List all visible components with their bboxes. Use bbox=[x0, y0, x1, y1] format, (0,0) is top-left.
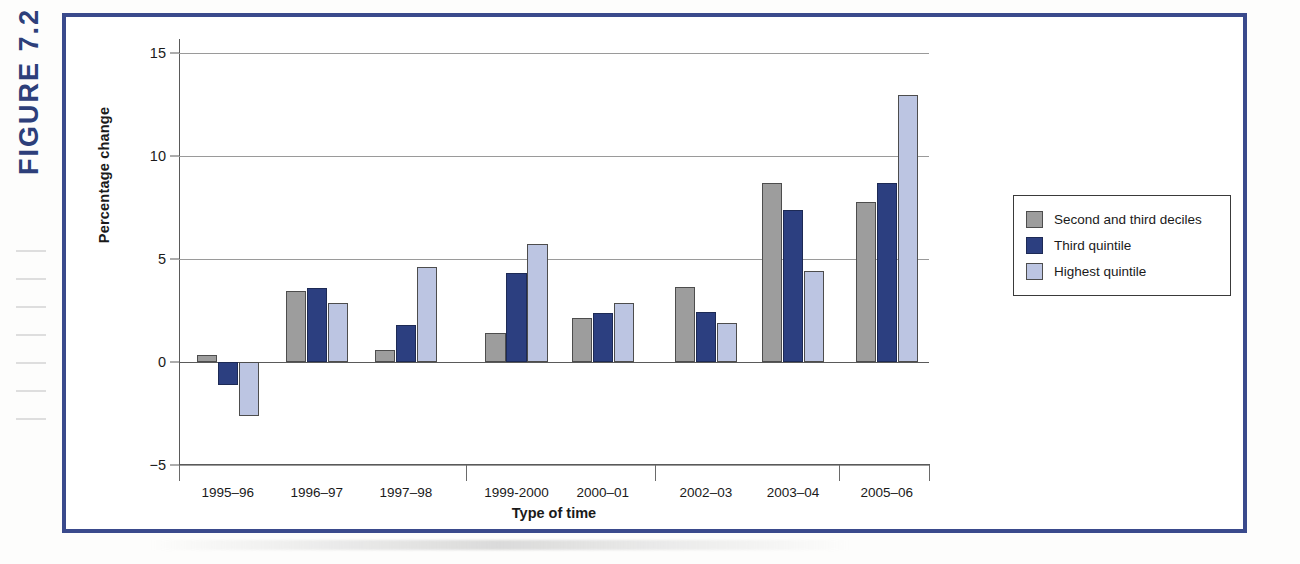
legend-swatch-icon bbox=[1026, 237, 1043, 254]
bar[interactable] bbox=[717, 323, 738, 362]
x-tick-label: 2003–04 bbox=[767, 485, 820, 500]
bar[interactable] bbox=[328, 303, 349, 362]
page-scan-artifact bbox=[150, 540, 850, 550]
bar[interactable] bbox=[506, 273, 527, 362]
y-tick-mark bbox=[170, 465, 179, 466]
bar[interactable] bbox=[783, 210, 804, 362]
bar[interactable] bbox=[877, 183, 898, 362]
bar[interactable] bbox=[593, 313, 614, 362]
x-tick-label: 2002–03 bbox=[680, 485, 733, 500]
bar[interactable] bbox=[417, 267, 438, 362]
y-tick-label: −5 bbox=[149, 457, 166, 473]
y-tick-mark bbox=[170, 259, 179, 260]
bar[interactable] bbox=[696, 312, 717, 362]
bar[interactable] bbox=[286, 291, 307, 362]
bar[interactable] bbox=[675, 287, 696, 362]
legend-label: Second and third deciles bbox=[1054, 212, 1202, 227]
x-tick-label: 1997–98 bbox=[380, 485, 433, 500]
figure-number-text: FIGURE 7.2 bbox=[15, 8, 46, 175]
x-tick-label: 1996–97 bbox=[291, 485, 344, 500]
bar-group bbox=[675, 53, 738, 465]
gridline bbox=[179, 465, 929, 466]
bar-group bbox=[856, 53, 919, 465]
plot-area: 151050−5 1995–961996–971997–981999-20002… bbox=[179, 53, 929, 465]
y-axis-title: Percentage change bbox=[96, 75, 112, 275]
chart-frame: Percentage change 151050−5 1995–961996–9… bbox=[62, 13, 1247, 533]
bar[interactable] bbox=[197, 355, 218, 362]
bar-group bbox=[197, 53, 260, 465]
legend-item[interactable]: Highest quintile bbox=[1026, 258, 1218, 284]
bar-group bbox=[485, 53, 548, 465]
y-tick-mark bbox=[170, 156, 179, 157]
legend-item[interactable]: Third quintile bbox=[1026, 232, 1218, 258]
bar[interactable] bbox=[218, 362, 239, 385]
x-axis-title: Type of time bbox=[179, 505, 929, 521]
x-tick-label: 1995–96 bbox=[201, 485, 254, 500]
bar[interactable] bbox=[527, 244, 548, 362]
x-tick-label: 1999-2000 bbox=[484, 485, 549, 500]
page-margin-artifact bbox=[16, 250, 46, 510]
x-tick-mark bbox=[839, 465, 840, 481]
bar[interactable] bbox=[572, 318, 593, 362]
figure-number-label: FIGURE 7.2 bbox=[2, 6, 58, 216]
bar-group bbox=[762, 53, 825, 465]
y-tick-mark bbox=[170, 53, 179, 54]
bar[interactable] bbox=[898, 95, 919, 362]
legend-label: Highest quintile bbox=[1054, 264, 1146, 279]
legend-label: Third quintile bbox=[1054, 238, 1131, 253]
bar[interactable] bbox=[614, 303, 635, 362]
figure-page: FIGURE 7.2 Percentage change 151050−5 19… bbox=[0, 0, 1300, 564]
legend-item[interactable]: Second and third deciles bbox=[1026, 206, 1218, 232]
bar-group bbox=[286, 53, 349, 465]
bar-group bbox=[572, 53, 635, 465]
y-tick-label: 10 bbox=[150, 148, 166, 164]
x-tick-mark bbox=[929, 465, 930, 481]
y-tick-label: 15 bbox=[150, 45, 166, 61]
bar[interactable] bbox=[762, 183, 783, 362]
bar[interactable] bbox=[239, 362, 260, 416]
legend-swatch-icon bbox=[1026, 263, 1043, 280]
x-tick-label: 2005–06 bbox=[861, 485, 914, 500]
bar[interactable] bbox=[396, 325, 417, 362]
legend-swatch-icon bbox=[1026, 211, 1043, 228]
y-tick-label: 0 bbox=[158, 354, 166, 370]
bar[interactable] bbox=[485, 333, 506, 362]
x-tick-mark bbox=[655, 465, 656, 481]
bar[interactable] bbox=[804, 271, 825, 362]
x-tick-mark bbox=[466, 465, 467, 481]
x-tick-label: 2000–01 bbox=[576, 485, 629, 500]
bar[interactable] bbox=[375, 350, 396, 362]
x-tick-mark bbox=[179, 465, 180, 481]
y-tick-mark bbox=[170, 362, 179, 363]
bar[interactable] bbox=[307, 288, 328, 362]
chart-plot-wrapper: Percentage change 151050−5 1995–961996–9… bbox=[66, 17, 1251, 537]
chart-legend: Second and third decilesThird quintileHi… bbox=[1013, 195, 1231, 296]
bar-group bbox=[375, 53, 438, 465]
y-tick-label: 5 bbox=[158, 251, 166, 267]
bar[interactable] bbox=[856, 202, 877, 362]
